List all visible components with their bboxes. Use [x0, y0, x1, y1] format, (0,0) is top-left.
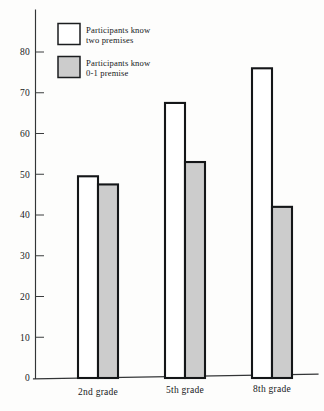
bars-layer [78, 68, 292, 378]
legend-entry-1-line2: 0-1 premise [86, 68, 128, 78]
y-tick-label: 30 [20, 251, 30, 261]
bar-2nd-grade-series-1 [98, 184, 118, 378]
legend-gray-swatch [58, 57, 80, 78]
y-tick-label: 70 [20, 88, 30, 98]
y-tick-label: 10 [20, 333, 30, 343]
bar-2nd-grade-series-0 [78, 176, 98, 378]
chart-canvas: 01020304050607080 2nd grade5th grade8th … [0, 0, 324, 411]
y-tick-label: 50 [20, 170, 30, 180]
category-label-2nd-grade: 2nd grade [78, 387, 118, 397]
category-label-8th-grade: 8th grade [253, 384, 291, 394]
y-tick-label: 60 [20, 129, 30, 139]
legend-white-swatch [58, 24, 80, 45]
bar-8th-grade-series-0 [252, 68, 272, 378]
bar-chart-figure: 01020304050607080 2nd grade5th grade8th … [0, 0, 324, 411]
legend-entry-0-line1: Participants know [86, 25, 151, 35]
chart-legend: Participants know two premises Participa… [58, 24, 151, 79]
y-tick-label: 0 [25, 373, 30, 383]
y-tick-label: 40 [20, 210, 30, 220]
legend-entry-0-line2: two premises [86, 35, 134, 45]
bar-5th-grade-series-0 [165, 103, 185, 378]
bar-8th-grade-series-1 [272, 207, 292, 378]
legend-entry-1-line1: Participants know [86, 58, 151, 68]
bar-5th-grade-series-1 [185, 162, 205, 378]
y-tick-label: 20 [20, 292, 30, 302]
category-labels: 2nd grade5th grade8th grade [78, 384, 291, 397]
category-label-5th-grade: 5th grade [166, 385, 204, 395]
y-axis-ticks: 01020304050607080 [20, 47, 44, 383]
y-tick-label: 80 [20, 47, 30, 57]
